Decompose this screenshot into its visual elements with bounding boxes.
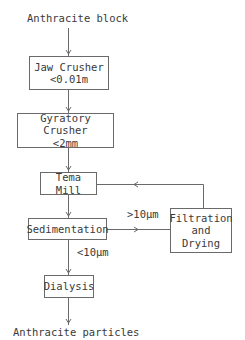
fine-fraction-label: <10µm — [77, 246, 109, 258]
connector-lines — [0, 0, 245, 340]
dialysis-box: Dialysis — [44, 275, 94, 298]
filtration-line3: Drying — [182, 237, 220, 250]
filtration-drying-box: Filtration and Drying — [170, 208, 232, 253]
jaw-crusher-name: Jaw Crusher — [34, 61, 104, 74]
sedimentation-box: Sedimentation — [28, 218, 107, 240]
gyratory-crusher-spec: <2mm — [53, 137, 78, 150]
tema-mill-box: Tema Mill — [40, 172, 97, 195]
jaw-crusher-spec: <0.01m — [50, 73, 88, 86]
gyratory-crusher-box: Gyratory Crusher <2mm — [17, 113, 114, 148]
filtration-line1: Filtration — [169, 212, 232, 225]
coarse-fraction-label: >10µm — [127, 208, 159, 220]
input-label: Anthracite block — [27, 12, 128, 24]
output-label: Anthracite particles — [13, 326, 139, 338]
gyratory-crusher-name: Gyratory Crusher — [18, 112, 113, 137]
sedimentation-name: Sedimentation — [26, 223, 108, 236]
flowchart-canvas: Anthracite block Jaw Crusher <0.01m Gyra… — [0, 0, 245, 340]
dialysis-name: Dialysis — [44, 280, 95, 293]
jaw-crusher-box: Jaw Crusher <0.01m — [29, 56, 109, 90]
tema-mill-name: Tema Mill — [41, 171, 96, 196]
filtration-line2: and — [192, 224, 211, 237]
